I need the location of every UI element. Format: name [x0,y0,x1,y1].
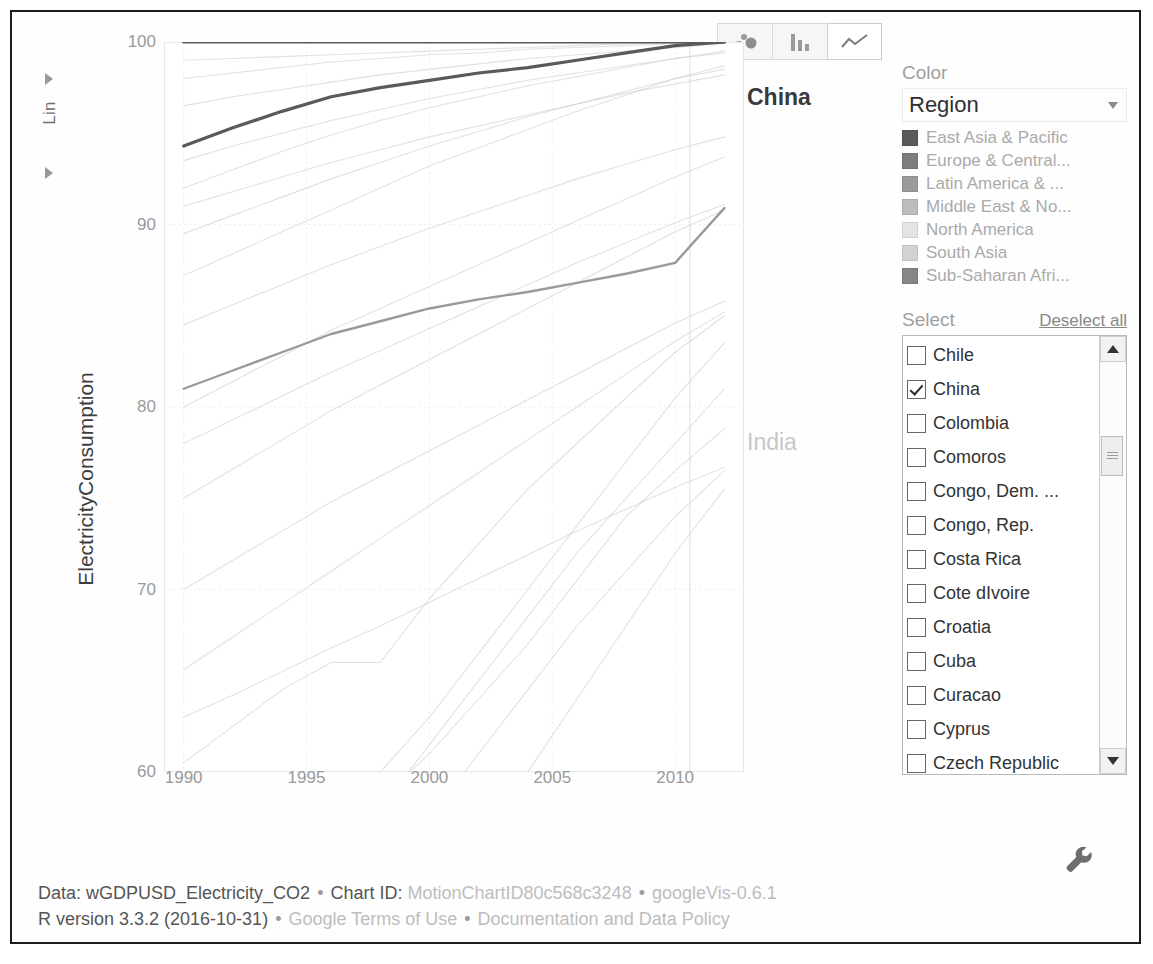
country-name-label: Congo, Dem. ... [933,481,1059,502]
wrench-icon [1057,838,1097,878]
scroll-up-button[interactable] [1100,336,1126,362]
scroll-down-button[interactable] [1100,748,1126,774]
country-list[interactable]: ChileChinaColombiaComorosCongo, Dem. ...… [903,336,1099,774]
country-list-item[interactable]: Comoros [907,440,1099,474]
series-label-china: China [747,84,811,111]
country-list-item[interactable]: Croatia [907,610,1099,644]
country-list-item[interactable]: Congo, Rep. [907,508,1099,542]
country-name-label: Comoros [933,447,1006,468]
legend-row[interactable]: Sub-Saharan Afri... [902,264,1127,287]
bar-chart-button[interactable] [772,23,827,60]
country-name-label: Congo, Rep. [933,515,1034,536]
country-list-item[interactable]: Cuba [907,644,1099,678]
x-tick-label: 2010 [656,768,694,788]
country-checkbox[interactable] [907,346,926,365]
country-list-item[interactable]: Cyprus [907,712,1099,746]
country-checkbox[interactable] [907,754,926,773]
footer-separator-4: • [462,909,472,929]
series-label-india: India [747,429,797,456]
settings-wrench-button[interactable] [1057,838,1097,878]
footer-data-value: wGDPUSD_Electricity_CO2 [86,883,310,903]
legend-color-swatch [902,245,918,261]
y-tick-label: 80 [137,397,156,417]
legend-color-swatch [902,130,918,146]
country-list-item[interactable]: Costa Rica [907,542,1099,576]
country-checkbox[interactable] [907,584,926,603]
legend-label: East Asia & Pacific [926,128,1068,148]
legend-row[interactable]: Latin America & ... [902,172,1127,195]
x-tick-label: 2000 [411,768,449,788]
legend-color-swatch [902,268,918,284]
country-checkbox[interactable] [907,482,926,501]
y-axis-title: ElectricityConsumption [74,319,98,639]
legend-label: Europe & Central... [926,151,1071,171]
country-name-label: Costa Rica [933,549,1021,570]
line-chart-canvas[interactable] [164,42,744,772]
footer-line-2: R version 3.3.2 (2016-10-31) • Google Te… [38,906,777,932]
country-list-item[interactable]: Cote dIvoire [907,576,1099,610]
country-select-box[interactable]: ChileChinaColombiaComorosCongo, Dem. ...… [902,335,1127,775]
country-checkbox[interactable] [907,652,926,671]
y-axis-tick-labels: 60708090100 [98,42,156,772]
footer-terms-link[interactable]: Google Terms of Use [288,909,457,929]
country-name-label: China [933,379,980,400]
country-checkbox[interactable] [907,686,926,705]
legend-color-swatch [902,222,918,238]
country-name-label: Czech Republic [933,753,1059,774]
country-list-item[interactable]: Congo, Dem. ... [907,474,1099,508]
color-variable-value: Region [909,92,979,118]
side-panel: Color Region East Asia & PacificEurope &… [902,62,1127,775]
legend-row[interactable]: East Asia & Pacific [902,126,1127,149]
y-tick-label: 70 [137,580,156,600]
footer-data-label: Data: [38,883,81,903]
color-variable-select[interactable]: Region [902,88,1127,122]
y-tick-label: 100 [128,32,156,52]
x-tick-label: 2005 [533,768,571,788]
scale-down-triangle-icon[interactable] [45,167,53,179]
plot-area[interactable] [164,42,744,772]
footer-docs-link[interactable]: Documentation and Data Policy [478,909,730,929]
legend-color-swatch [902,153,918,169]
country-name-label: Chile [933,345,974,366]
legend-row[interactable]: South Asia [902,241,1127,264]
arrow-up-icon [1107,345,1119,353]
y-scale-mode-label: Lin [40,87,60,139]
country-name-label: Cyprus [933,719,990,740]
x-tick-label: 1990 [165,768,203,788]
country-checkbox[interactable] [907,516,926,535]
footer-googlevis-version: googleVis-0.6.1 [652,883,777,903]
y-axis-scale-switch[interactable]: Lin [36,67,62,227]
y-tick-label: 60 [137,762,156,782]
country-name-label: Croatia [933,617,991,638]
country-list-scrollbar[interactable] [1099,336,1126,774]
chevron-down-icon[interactable] [1108,102,1118,109]
legend-label: Latin America & ... [926,174,1064,194]
legend-row[interactable]: Europe & Central... [902,149,1127,172]
legend-row[interactable]: Middle East & No... [902,195,1127,218]
line-chart-button[interactable] [827,23,882,60]
country-list-item[interactable]: Chile [907,338,1099,372]
window-frame: Lin ElectricityConsumption 60708090100 1… [10,10,1141,944]
footer-line-1: Data: wGDPUSD_Electricity_CO2 • Chart ID… [38,880,777,906]
country-checkbox[interactable] [907,550,926,569]
country-checkbox[interactable] [907,720,926,739]
country-checkbox[interactable] [907,448,926,467]
select-panel-header: Select Deselect all [902,309,1127,331]
footer-separator-2: • [637,883,647,903]
country-list-item[interactable]: Czech Republic [907,746,1099,774]
legend-color-swatch [902,176,918,192]
country-checkbox[interactable] [907,380,926,399]
footer: Data: wGDPUSD_Electricity_CO2 • Chart ID… [38,880,777,932]
deselect-all-link[interactable]: Deselect all [1039,311,1127,331]
scrollbar-thumb[interactable] [1101,436,1123,476]
x-tick-label: 1995 [288,768,326,788]
country-list-item[interactable]: Colombia [907,406,1099,440]
country-checkbox[interactable] [907,414,926,433]
country-checkbox[interactable] [907,618,926,637]
country-list-item[interactable]: Curacao [907,678,1099,712]
country-list-item[interactable]: China [907,372,1099,406]
legend-row[interactable]: North America [902,218,1127,241]
scale-up-triangle-icon[interactable] [45,73,53,85]
legend-label: Middle East & No... [926,197,1072,217]
grip-icon [1107,452,1118,461]
